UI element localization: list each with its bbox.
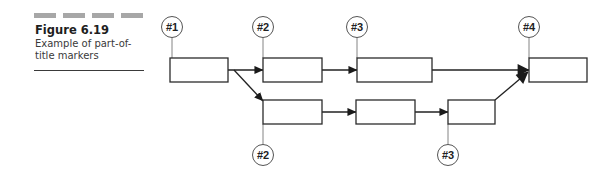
title-marker: #3 bbox=[438, 145, 459, 166]
part-of-title-diagram: #1#2#3#4#2#3 bbox=[0, 0, 616, 172]
title-marker: #2 bbox=[253, 17, 274, 38]
task-box-b2 bbox=[263, 58, 322, 82]
title-marker: #3 bbox=[347, 17, 368, 38]
title-marker: #1 bbox=[162, 17, 183, 38]
arrow-b1-to-b5 bbox=[234, 70, 263, 101]
task-box-b7 bbox=[448, 100, 495, 124]
marker-label: #1 bbox=[166, 21, 178, 33]
marker-leader-lines bbox=[172, 38, 529, 145]
marker-label: #3 bbox=[351, 21, 363, 33]
task-box-b3 bbox=[357, 58, 432, 82]
marker-label: #3 bbox=[442, 149, 454, 161]
title-marker: #2 bbox=[253, 145, 274, 166]
arrow-b7-to-b4 bbox=[495, 72, 528, 100]
marker-label: #2 bbox=[257, 149, 269, 161]
task-box-b4 bbox=[529, 58, 587, 82]
title-marker: #4 bbox=[519, 17, 540, 38]
task-box-b1 bbox=[170, 58, 228, 82]
task-boxes bbox=[170, 58, 587, 124]
title-markers: #1#2#3#4#2#3 bbox=[162, 17, 540, 166]
marker-label: #4 bbox=[523, 21, 536, 33]
task-box-b5 bbox=[263, 100, 322, 124]
task-box-b6 bbox=[356, 100, 415, 124]
marker-label: #2 bbox=[257, 21, 269, 33]
